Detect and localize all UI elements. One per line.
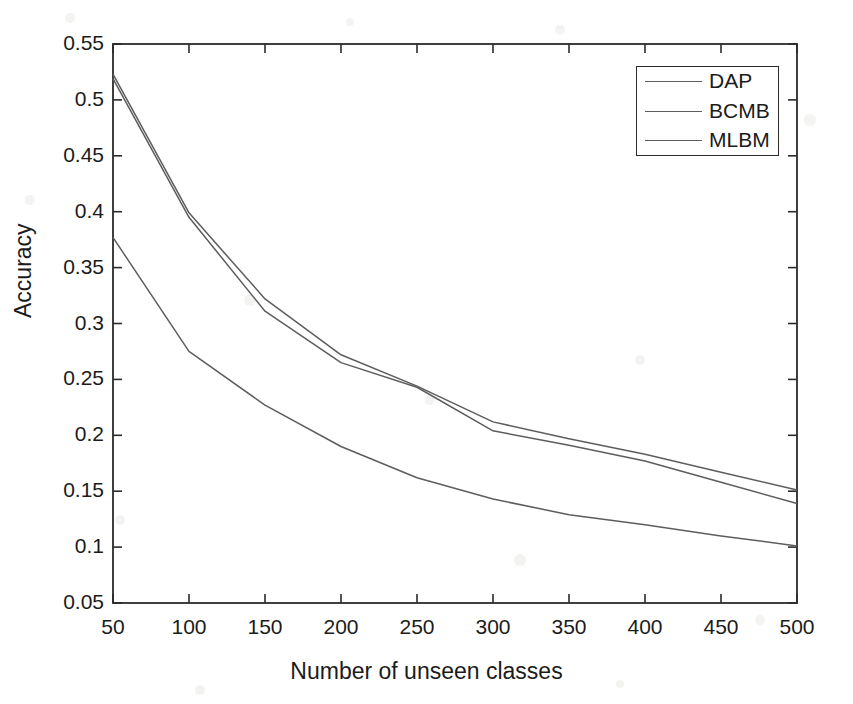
x-tick-label: 400 bbox=[615, 615, 675, 639]
x-tick-label: 50 bbox=[83, 615, 143, 639]
y-tick-label: 0.05 bbox=[30, 590, 104, 614]
y-tick-label: 0.35 bbox=[30, 255, 104, 279]
legend-label-bcmb: BCMB bbox=[709, 99, 770, 123]
x-tick-label: 100 bbox=[159, 615, 219, 639]
legend-item-bcmb: BCMB bbox=[637, 97, 780, 127]
y-tick-label: 0.25 bbox=[30, 366, 104, 390]
x-tick-label: 150 bbox=[235, 615, 295, 639]
legend-swatch-dap bbox=[645, 81, 702, 82]
y-tick-label: 0.3 bbox=[30, 311, 104, 335]
x-tick-label: 200 bbox=[311, 615, 371, 639]
y-tick-label: 0.1 bbox=[30, 534, 104, 558]
y-tick-label: 0.4 bbox=[30, 199, 104, 223]
x-tick-label: 250 bbox=[387, 615, 447, 639]
legend-item-mlbm: MLBM bbox=[637, 126, 780, 156]
y-tick-label: 0.45 bbox=[30, 143, 104, 167]
x-tick-label: 500 bbox=[767, 615, 827, 639]
x-axis-title: Number of unseen classes bbox=[0, 658, 853, 685]
series-line-mlbm bbox=[113, 237, 797, 546]
legend-item-dap: DAP bbox=[637, 67, 780, 97]
y-axis-title: Accuracy bbox=[10, 292, 37, 318]
legend-swatch-mlbm bbox=[645, 140, 702, 141]
legend-label-mlbm: MLBM bbox=[709, 128, 770, 152]
x-tick-label: 450 bbox=[691, 615, 751, 639]
legend: DAP BCMB MLBM bbox=[636, 66, 779, 156]
legend-label-dap: DAP bbox=[709, 69, 752, 93]
y-tick-label: 0.5 bbox=[30, 87, 104, 111]
y-tick-label: 0.15 bbox=[30, 478, 104, 502]
y-tick-label: 0.55 bbox=[30, 31, 104, 55]
x-tick-label: 350 bbox=[539, 615, 599, 639]
legend-swatch-bcmb bbox=[645, 111, 702, 112]
y-tick-label: 0.2 bbox=[30, 422, 104, 446]
x-tick-label: 300 bbox=[463, 615, 523, 639]
figure-canvas: 0.050.10.150.20.250.30.350.40.450.50.55 … bbox=[0, 0, 853, 704]
